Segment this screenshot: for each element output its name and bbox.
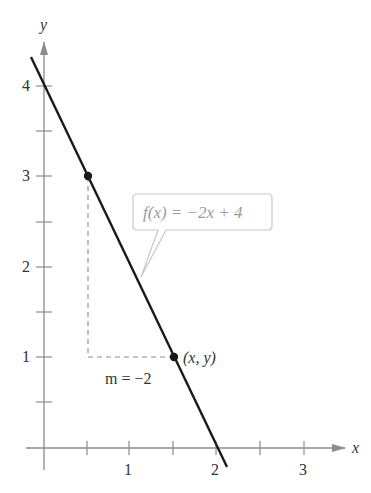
- point-a: [84, 172, 92, 180]
- chart: 1 2 3 1 2 3 4 x y f(x) = −2x + 4 (x, y) …: [0, 0, 371, 493]
- point-xy: [170, 353, 178, 361]
- x-tick-label-2: 2: [211, 461, 219, 478]
- y-axis-label: y: [38, 16, 48, 34]
- callout-label: f(x) = −2x + 4: [143, 203, 243, 222]
- function-line: [31, 57, 227, 467]
- y-tick-label-2: 2: [22, 258, 30, 275]
- y-tick-label-1: 1: [22, 348, 30, 365]
- callout: f(x) = −2x + 4: [133, 194, 272, 277]
- x-tick-label-1: 1: [124, 461, 132, 478]
- slope-label: m = −2: [105, 370, 152, 387]
- x-axis-label: x: [351, 439, 359, 456]
- y-tick-label-4: 4: [22, 77, 30, 94]
- y-tick-label-3: 3: [22, 167, 30, 184]
- point-label: (x, y): [183, 349, 216, 367]
- x-tick-label-3: 3: [299, 461, 307, 478]
